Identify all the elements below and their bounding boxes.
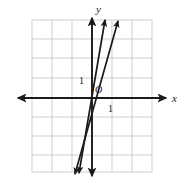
- y-axis-label: y: [95, 3, 101, 15]
- y-unit-tick-label: 1: [79, 75, 84, 86]
- graph-canvas: x y O 1 1: [0, 0, 190, 192]
- plotted-lines: [75, 20, 118, 174]
- x-unit-tick-label: 1: [108, 103, 113, 114]
- origin-label: O: [95, 84, 102, 95]
- coordinate-plane-figure: x y O 1 1: [0, 0, 190, 192]
- x-axis-label: x: [171, 92, 177, 104]
